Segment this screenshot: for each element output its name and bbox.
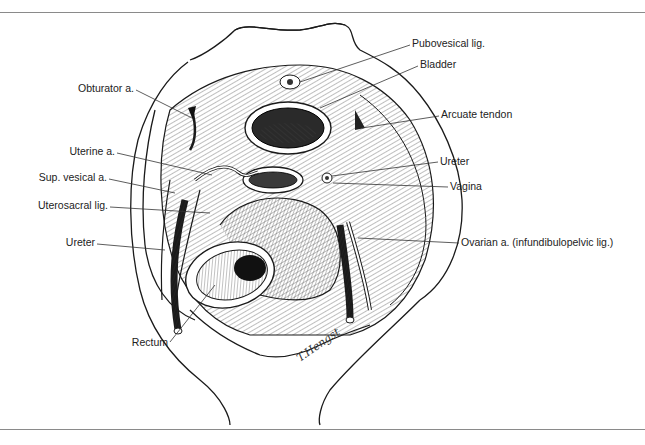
bladder <box>245 102 331 154</box>
label-ureter-left: Ureter <box>66 236 95 248</box>
label-arcuate-tendon: Arcuate tendon <box>441 108 512 120</box>
ureter-cross-section <box>322 173 332 183</box>
label-uterosacral-lig: Uterosacral lig. <box>38 199 108 211</box>
vagina <box>243 167 303 193</box>
label-uterine-a: Uterine a. <box>69 145 115 157</box>
label-ureter-right: Ureter <box>440 155 469 167</box>
label-pubovesical-lig: Pubovesical lig. <box>412 37 485 49</box>
label-obturator-a: Obturator a. <box>78 82 134 94</box>
pubic-rim <box>235 23 345 30</box>
label-bladder: Bladder <box>420 58 456 70</box>
urethra <box>280 75 300 89</box>
label-ovarian-a: Ovarian a. (infundibulopelvic lig.) <box>461 236 613 248</box>
label-sup-vesical-a: Sup. vesical a. <box>39 171 107 183</box>
label-vagina: Vagina <box>450 180 482 192</box>
pelvic-anatomy-illustration: T.Hengst <box>0 0 645 445</box>
label-rectum: Rectum <box>132 336 168 348</box>
